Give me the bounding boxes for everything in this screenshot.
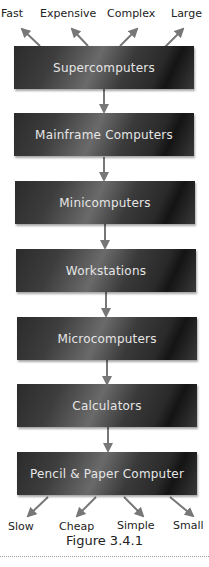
- label-complex: Complex: [107, 7, 155, 20]
- label-fast: Fast: [1, 7, 23, 20]
- box-microcomputers: Microcomputers: [17, 317, 197, 360]
- box-supercomputers: Supercomputers: [14, 46, 194, 89]
- dotted-divider: [0, 556, 209, 557]
- arrow-expensive: [72, 29, 88, 46]
- label-large: Large: [171, 7, 202, 20]
- label-simple: Simple: [117, 519, 155, 532]
- box-label: Minicomputers: [59, 196, 150, 210]
- box-label: Microcomputers: [57, 332, 156, 346]
- arrow-complex: [120, 29, 137, 46]
- arrow-slow: [28, 497, 48, 516]
- box-label: Mainframe Computers: [35, 128, 173, 142]
- arrow-fast: [22, 29, 40, 46]
- arrow-simple: [124, 497, 143, 516]
- box-workstations: Workstations: [16, 249, 196, 292]
- label-slow: Slow: [8, 520, 34, 533]
- label-small: Small: [173, 519, 204, 532]
- arrow-cheap: [77, 497, 96, 516]
- box-minicomputers: Minicomputers: [15, 181, 195, 224]
- box-label: Supercomputers: [53, 61, 155, 75]
- arrow-small: [170, 497, 193, 516]
- figure-caption: Figure 3.4.1: [0, 533, 209, 548]
- label-cheap: Cheap: [59, 520, 94, 533]
- box-label: Pencil & Paper Computer: [30, 467, 184, 481]
- label-expensive: Expensive: [40, 7, 96, 20]
- box-pencil-paper-computer: Pencil & Paper Computer: [17, 452, 197, 495]
- box-label: Workstations: [66, 264, 146, 278]
- box-calculators: Calculators: [17, 384, 197, 427]
- box-label: Calculators: [72, 399, 141, 413]
- box-mainframe-computers: Mainframe Computers: [14, 113, 194, 156]
